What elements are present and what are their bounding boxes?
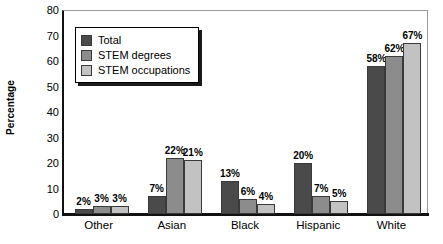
y-axis-title-text: Percentage <box>5 80 16 135</box>
legend-label: STEM occupations <box>98 65 190 76</box>
bar-group: 13%6%4% <box>221 10 275 214</box>
y-axis-tick-label: 40 <box>19 107 59 118</box>
x-axis-category-label: Other <box>62 219 135 231</box>
y-axis-tick-label: 70 <box>19 30 59 41</box>
bar-value-label: 4% <box>251 192 281 202</box>
bar-group: 20%7%5% <box>294 10 348 214</box>
bar-value-label: 5% <box>324 189 354 199</box>
legend-swatch-icon <box>81 35 92 46</box>
x-axis-category-labels: OtherAsianBlackHispanicWhite <box>62 219 428 239</box>
x-axis-category-label: Hispanic <box>282 219 355 231</box>
bar-value-label: 13% <box>215 169 245 179</box>
x-axis-category-label: Asian <box>135 219 208 231</box>
bar-value-label: 20% <box>288 151 318 161</box>
legend-label: STEM degrees <box>98 50 171 61</box>
bar-group: 58%62%67% <box>367 10 421 214</box>
bar-value-label: 67% <box>397 31 427 41</box>
chart-legend: TotalSTEM degreesSTEM occupations <box>75 27 199 83</box>
y-axis-tick-label: 0 <box>19 209 59 220</box>
y-axis-tick-label: 60 <box>19 56 59 67</box>
y-axis-tick-label: 50 <box>19 81 59 92</box>
bar[interactable] <box>385 56 403 214</box>
y-axis-tick-label: 80 <box>19 5 59 16</box>
y-axis-tick-labels: 01020304050607080 <box>16 0 59 244</box>
bar[interactable] <box>403 43 421 214</box>
bar[interactable] <box>367 66 385 214</box>
bar[interactable] <box>330 201 348 214</box>
legend-item[interactable]: Total <box>81 33 190 47</box>
x-axis-category-label: White <box>355 219 428 231</box>
bar[interactable] <box>111 206 129 214</box>
legend-swatch-icon <box>81 65 92 76</box>
bar[interactable] <box>257 204 275 214</box>
legend-swatch-icon <box>81 50 92 61</box>
bar[interactable] <box>93 206 111 214</box>
legend-label: Total <box>98 35 121 46</box>
bar-value-label: 21% <box>178 148 208 158</box>
bar[interactable] <box>184 160 202 214</box>
legend-item[interactable]: STEM occupations <box>81 63 190 77</box>
x-axis-category-label: Black <box>208 219 281 231</box>
bar-value-label: 3% <box>105 194 135 204</box>
y-axis-tick-label: 10 <box>19 183 59 194</box>
bar[interactable] <box>166 158 184 214</box>
bar-chart: Percentage 01020304050607080 2%3%3%7%22%… <box>0 0 443 244</box>
y-axis-tick-label: 30 <box>19 132 59 143</box>
y-axis-tick-label: 20 <box>19 158 59 169</box>
legend-item[interactable]: STEM degrees <box>81 48 190 62</box>
bar[interactable] <box>75 209 93 214</box>
bar[interactable] <box>148 196 166 214</box>
